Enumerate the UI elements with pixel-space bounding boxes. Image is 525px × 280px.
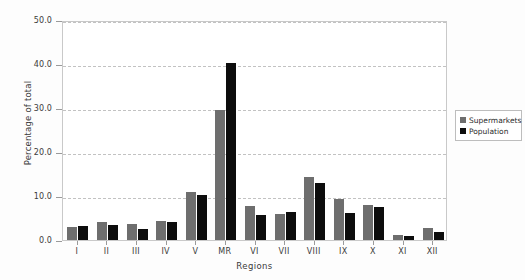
y-tick-label: 0.0 (0, 236, 52, 245)
bar-supermarkets (127, 224, 137, 240)
bar-population (374, 207, 384, 240)
x-tick-mark (314, 241, 315, 245)
bar-population (78, 226, 88, 240)
bar-group (304, 22, 325, 240)
bar-group (186, 22, 207, 240)
bar-supermarkets (245, 206, 255, 240)
bar-supermarkets (215, 110, 225, 240)
x-tick-mark (106, 241, 107, 245)
bar-supermarkets (186, 192, 196, 240)
bar-supermarkets (156, 221, 166, 240)
y-tick-label: 50.0 (0, 16, 52, 25)
bar-group (67, 22, 88, 240)
x-tick-mark (136, 241, 137, 245)
x-tick-mark (195, 241, 196, 245)
bar-supermarkets (393, 235, 403, 240)
bar-population (345, 213, 355, 240)
legend-label: Supermarkets (469, 116, 521, 125)
bar-group (97, 22, 118, 240)
bar-group (334, 22, 355, 240)
bar-population (108, 225, 118, 240)
bar-population (256, 215, 266, 240)
legend-label: Population (469, 127, 508, 136)
x-tick-mark (284, 241, 285, 245)
bar-group (423, 22, 444, 240)
plot-area (62, 21, 447, 241)
x-tick-mark (373, 241, 374, 245)
y-tick-label: 30.0 (0, 104, 52, 113)
bar-population (167, 222, 177, 240)
legend-swatch-icon (460, 117, 466, 123)
bar-population (138, 229, 148, 240)
bar-group (363, 22, 384, 240)
chart-figure: Percentage of total 0.010.020.030.040.05… (0, 0, 525, 280)
x-tick-mark (166, 241, 167, 245)
y-tick-label: 10.0 (0, 192, 52, 201)
bar-group (245, 22, 266, 240)
bar-supermarkets (334, 199, 344, 240)
bar-supermarkets (275, 214, 285, 240)
bar-supermarkets (67, 227, 77, 240)
bar-supermarkets (423, 228, 433, 240)
y-tick-label: 20.0 (0, 148, 52, 157)
bar-group (393, 22, 414, 240)
x-tick-mark (343, 241, 344, 245)
x-tick-mark (432, 241, 433, 245)
bar-population (286, 212, 296, 240)
bar-groups (63, 22, 446, 240)
bar-group (215, 22, 236, 240)
x-tick-mark (225, 241, 226, 245)
bar-population (404, 236, 414, 240)
legend-item[interactable]: Population (460, 126, 518, 136)
bar-group (127, 22, 148, 240)
legend-item[interactable]: Supermarkets (460, 115, 518, 125)
bar-population (434, 232, 444, 240)
y-tick-mark (56, 241, 62, 242)
x-axis-title: Regions (62, 261, 447, 271)
x-tick-mark (77, 241, 78, 245)
y-tick-label: 40.0 (0, 60, 52, 69)
bar-supermarkets (363, 205, 373, 240)
bar-group (275, 22, 296, 240)
chart-legend: SupermarketsPopulation (455, 110, 522, 141)
bar-supermarkets (97, 222, 107, 240)
bar-population (315, 183, 325, 240)
bar-supermarkets (304, 177, 314, 240)
bar-group (156, 22, 177, 240)
bar-population (226, 63, 236, 240)
x-tick-mark (255, 241, 256, 245)
bar-population (197, 195, 207, 240)
legend-swatch-icon (460, 128, 466, 134)
x-tick-label: XII (412, 247, 452, 256)
x-tick-mark (403, 241, 404, 245)
